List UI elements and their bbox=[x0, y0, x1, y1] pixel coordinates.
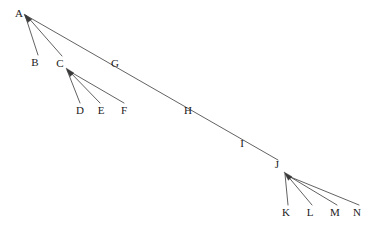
node-label-b[interactable]: B bbox=[31, 57, 38, 68]
arrowheads-group bbox=[24, 14, 292, 180]
node-label-e[interactable]: E bbox=[98, 105, 105, 116]
node-label-h[interactable]: H bbox=[184, 105, 192, 116]
node-label-g[interactable]: G bbox=[111, 58, 119, 69]
node-label-c[interactable]: C bbox=[56, 58, 63, 69]
node-label-i[interactable]: I bbox=[240, 138, 244, 149]
diagram-canvas: ABCDEFGHIJKLMN bbox=[0, 0, 384, 228]
node-label-l[interactable]: L bbox=[307, 207, 314, 218]
node-label-j[interactable]: J bbox=[275, 159, 279, 170]
arrowhead-at-a bbox=[24, 14, 32, 23]
edge-n-to-j bbox=[288, 176, 359, 205]
node-label-f[interactable]: F bbox=[121, 105, 127, 116]
node-label-m[interactable]: M bbox=[330, 207, 340, 218]
node-label-a[interactable]: A bbox=[15, 8, 23, 19]
node-label-n[interactable]: N bbox=[353, 207, 361, 218]
edge-d-to-c bbox=[67, 70, 80, 103]
edge-f-to-c bbox=[69, 71, 124, 103]
node-label-d[interactable]: D bbox=[76, 105, 84, 116]
node-label-k[interactable]: K bbox=[282, 207, 290, 218]
edge-m-to-j bbox=[287, 175, 337, 205]
